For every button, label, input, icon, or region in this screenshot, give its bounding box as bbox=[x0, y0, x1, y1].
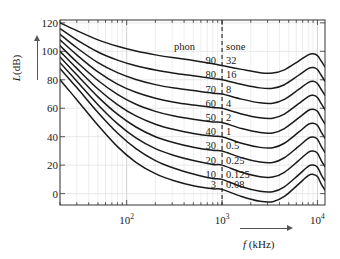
x-axis-label-symbol: f bbox=[243, 238, 246, 250]
x-axis-label: f (kHz) bbox=[243, 238, 274, 250]
x-axis-label-unit: (kHz) bbox=[249, 238, 275, 250]
x-axis-tick-1e2: 102 bbox=[119, 212, 134, 226]
x-axis-arrow-icon bbox=[240, 228, 290, 229]
x-axis-tick-1e3: 103 bbox=[215, 212, 230, 226]
x-axis-tick-1e4: 104 bbox=[310, 212, 325, 226]
plot-area bbox=[0, 0, 340, 259]
equal-loudness-chart: L(dB) 020406080100120 102103104 f (kHz) … bbox=[0, 0, 340, 259]
